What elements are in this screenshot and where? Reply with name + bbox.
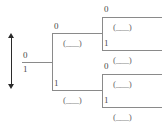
level2-branch-3-line	[102, 107, 162, 108]
level1-placeholder-1: (___)	[63, 96, 82, 105]
level2-label-2: 0	[104, 62, 109, 71]
arrow-head-down-icon	[8, 84, 14, 89]
level2-placeholder-1: (___)	[113, 56, 132, 65]
level2-branch-0-line	[102, 17, 162, 18]
level1-branch-0-line	[52, 33, 102, 34]
level2-placeholder-2: (___)	[113, 80, 132, 89]
root-label-down: 1	[23, 65, 28, 74]
level2-branch-1-line	[102, 50, 162, 51]
level1-label-1: 1	[54, 79, 59, 88]
level2-upper-split-connector	[102, 17, 103, 51]
level2-branch-2-line	[102, 74, 162, 75]
level1-split-connector	[52, 33, 53, 91]
level1-label-0: 0	[54, 22, 59, 31]
root-stem	[22, 62, 53, 63]
root-label-up: 0	[23, 51, 28, 60]
arrow-shaft	[11, 37, 12, 84]
level1-placeholder-0: (___)	[63, 39, 82, 48]
level1-branch-1-line	[52, 90, 102, 91]
level2-label-1: 1	[104, 39, 109, 48]
level2-lower-split-connector	[102, 74, 103, 108]
level2-placeholder-0: (___)	[113, 23, 132, 32]
binary-tree-diagram: 0 1 0 (___) 1 (___) 0 (___) 1 (___) 0 (_…	[0, 0, 162, 135]
level2-placeholder-3: (___)	[113, 113, 132, 122]
level2-label-0: 0	[104, 5, 109, 14]
level2-label-3: 1	[104, 96, 109, 105]
